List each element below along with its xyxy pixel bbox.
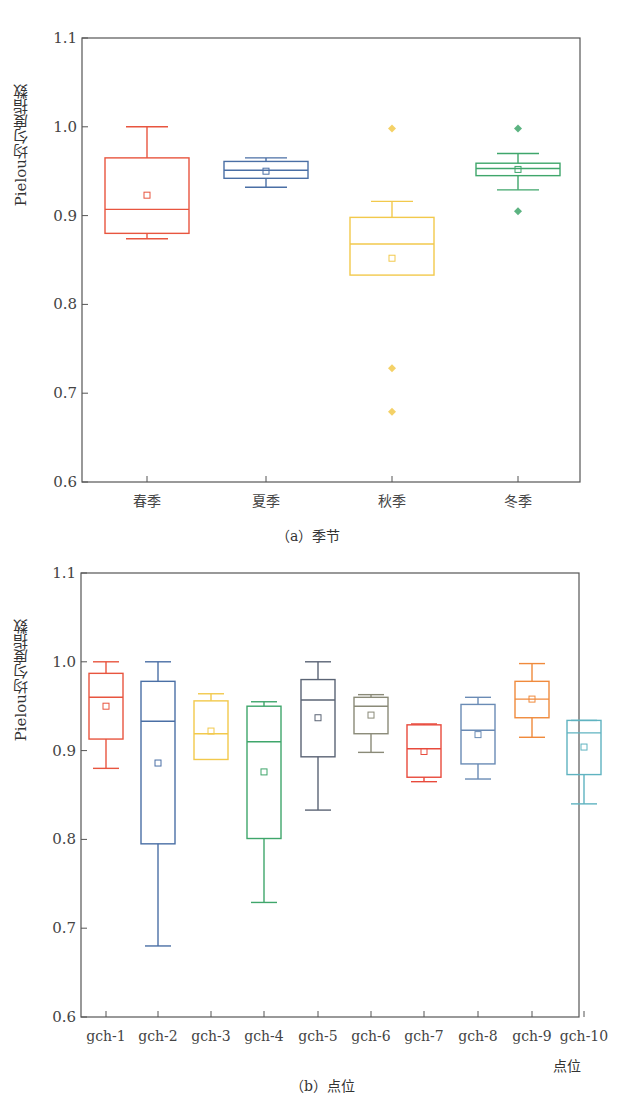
season-boxplot: 0.60.70.80.91.01.1春季夏季秋季冬季	[0, 0, 635, 555]
box-gch-7	[407, 724, 441, 782]
figure-caption: （a）季节	[276, 525, 340, 545]
x-tick-label: gch-8	[458, 1028, 497, 1044]
box-gch-5	[301, 662, 335, 810]
box-秋季	[350, 125, 434, 416]
iqr-box	[141, 681, 175, 844]
x-tick-label: gch-1	[86, 1028, 125, 1044]
iqr-box	[354, 697, 388, 733]
plot-frame	[81, 573, 579, 1017]
mean-marker	[144, 192, 150, 198]
mean-marker	[368, 712, 374, 718]
y-tick-label: 1.1	[52, 564, 76, 582]
box-春季	[105, 127, 189, 239]
panel-season: 0.60.70.80.91.01.1春季夏季秋季冬季 Pielou均匀度指数 （…	[0, 0, 635, 555]
x-tick-label: gch-5	[298, 1028, 337, 1044]
iqr-box	[89, 673, 123, 739]
mean-marker	[475, 732, 481, 738]
box-gch-8	[461, 697, 495, 779]
site-boxplot: 0.60.70.80.91.01.1gch-1gch-2gch-3gch-4gc…	[0, 555, 635, 1103]
box-gch-6	[354, 695, 388, 753]
mean-marker	[581, 744, 587, 750]
y-tick-label: 0.7	[53, 384, 77, 402]
box-gch-10	[567, 720, 601, 803]
iqr-box	[407, 725, 441, 777]
box-gch-9	[515, 664, 549, 738]
y-tick-label: 1.1	[53, 29, 77, 47]
box-冬季	[476, 125, 560, 216]
iqr-box	[194, 701, 228, 760]
iqr-box	[350, 217, 434, 275]
mean-marker	[155, 760, 161, 766]
y-tick-label: 0.9	[52, 742, 76, 760]
box-gch-1	[89, 662, 123, 769]
iqr-box	[461, 704, 495, 763]
box-gch-3	[194, 694, 228, 760]
x-tick-label: gch-2	[138, 1028, 177, 1044]
x-tick-label: gch-6	[351, 1028, 391, 1044]
iqr-box	[105, 158, 189, 233]
x-tick-label: gch-4	[244, 1028, 284, 1044]
y-tick-label: 0.8	[52, 830, 76, 848]
outlier-marker	[514, 125, 522, 133]
x-tick-label: gch-9	[512, 1028, 551, 1044]
x-axis-title: 点位	[553, 1055, 581, 1075]
figure-caption: （b）点位	[290, 1075, 355, 1095]
y-tick-label: 0.8	[53, 295, 77, 313]
x-tick-label: 春季	[133, 493, 161, 509]
iqr-box	[476, 163, 560, 175]
box-夏季	[224, 158, 308, 187]
outlier-marker	[514, 207, 522, 215]
y-tick-label: 1.0	[53, 118, 77, 136]
mean-marker	[515, 166, 521, 172]
x-tick-label: 秋季	[378, 493, 406, 509]
y-tick-label: 1.0	[52, 653, 76, 671]
box-gch-2	[141, 662, 175, 946]
x-tick-label: gch-3	[191, 1028, 230, 1044]
mean-marker	[315, 715, 321, 721]
mean-marker	[389, 255, 395, 261]
y-tick-label: 0.6	[52, 1008, 76, 1026]
iqr-box	[301, 680, 335, 757]
x-tick-label: gch-7	[404, 1028, 443, 1044]
x-tick-label: gch-10	[560, 1028, 608, 1044]
outlier-marker	[388, 125, 396, 133]
mean-marker	[263, 168, 269, 174]
x-tick-label: 夏季	[252, 493, 280, 509]
plot-frame	[82, 38, 580, 482]
outlier-marker	[388, 408, 396, 416]
iqr-box	[247, 706, 281, 838]
y-tick-label: 0.7	[52, 919, 76, 937]
iqr-box	[567, 720, 601, 774]
y-axis-label: Pielou均匀度指数	[10, 84, 31, 206]
mean-marker	[103, 703, 109, 709]
y-tick-label: 0.6	[53, 473, 77, 491]
mean-marker	[261, 769, 267, 775]
outlier-marker	[388, 364, 396, 372]
box-gch-4	[247, 702, 281, 903]
panel-site: 0.60.70.80.91.01.1gch-1gch-2gch-3gch-4gc…	[0, 555, 635, 1103]
x-tick-label: 冬季	[504, 493, 532, 509]
y-tick-label: 0.9	[53, 207, 77, 225]
y-axis-label: Pielou均匀度指数	[10, 619, 31, 741]
